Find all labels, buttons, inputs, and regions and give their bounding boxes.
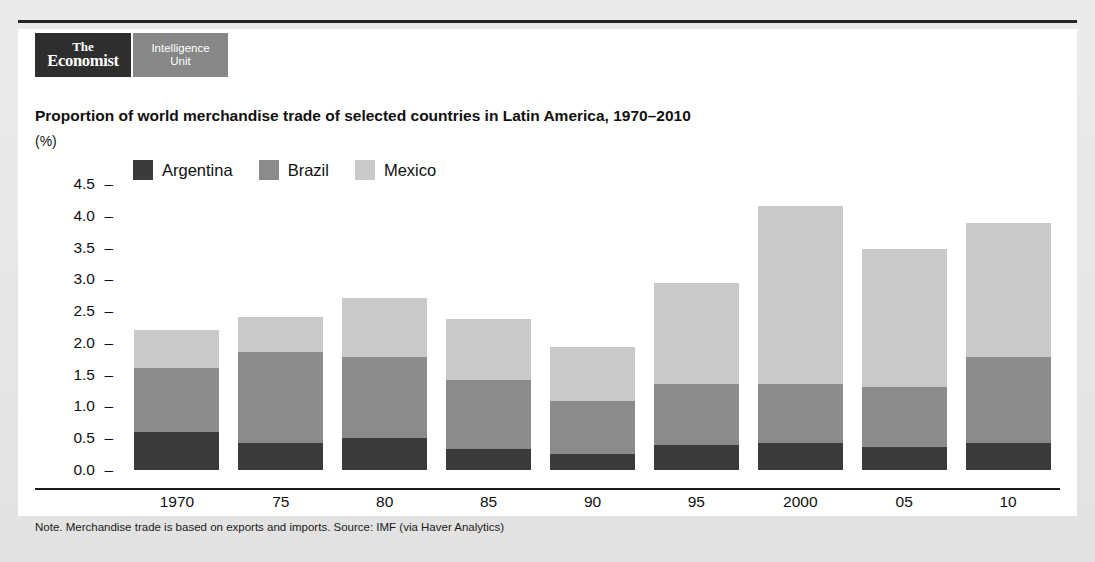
bar-1970[interactable] <box>134 330 219 470</box>
bar-segment-mexico <box>758 206 843 384</box>
y-axis-tick: 0.0– <box>35 461 113 479</box>
x-axis-label: 10 <box>999 493 1016 511</box>
bar-segment-argentina <box>550 454 635 470</box>
bar-2000[interactable] <box>758 206 843 470</box>
bar-segment-argentina <box>966 443 1051 470</box>
bar-80[interactable] <box>342 298 427 470</box>
bar-segment-brazil <box>758 384 843 442</box>
chart-footnote: Note. Merchandise trade is based on expo… <box>35 521 504 533</box>
bar-segment-argentina <box>446 449 531 470</box>
eiu-logo: The Economist Intelligence Unit <box>35 33 228 77</box>
bar-segment-mexico <box>134 330 219 368</box>
bar-segment-argentina <box>862 447 947 470</box>
eiu-logo-line2: Unit <box>170 55 190 68</box>
bar-75[interactable] <box>238 317 323 470</box>
intelligence-unit-logo-block: Intelligence Unit <box>133 33 228 77</box>
y-axis-tick: 1.0– <box>35 397 113 415</box>
y-axis-unit-label: (%) <box>35 133 57 149</box>
y-axis-tick-mark-icon: – <box>100 239 113 257</box>
y-axis-tick-label: 4.0 <box>73 207 95 224</box>
x-axis-labels: 1970758085909520000510 <box>125 493 1060 517</box>
bar-segment-mexico <box>446 319 531 380</box>
x-axis-line <box>35 488 1060 490</box>
plot-area: 4.5–4.0–3.5–3.0–2.5–2.0–1.5–1.0–0.5–0.0– <box>35 160 1060 470</box>
bar-segment-argentina <box>758 443 843 470</box>
y-axis-tick-mark-icon: – <box>100 302 113 320</box>
bar-segment-mexico <box>342 298 427 356</box>
bar-segment-brazil <box>342 357 427 438</box>
x-axis-label: 05 <box>896 493 913 511</box>
bar-segment-brazil <box>238 352 323 443</box>
y-axis-tick-mark-icon: – <box>100 175 113 193</box>
y-axis-tick-label: 4.5 <box>73 175 95 192</box>
y-axis-tick-label: 0.0 <box>73 461 95 478</box>
eiu-logo-line1: Intelligence <box>151 42 209 55</box>
bar-segment-argentina <box>238 443 323 470</box>
bar-segment-mexico <box>550 347 635 401</box>
y-axis-tick: 1.5– <box>35 366 113 384</box>
y-axis-tick-label: 1.0 <box>73 397 95 414</box>
y-axis-tick: 4.0– <box>35 207 113 225</box>
bar-segment-mexico <box>654 283 739 385</box>
x-axis-label: 2000 <box>783 493 817 511</box>
bar-90[interactable] <box>550 347 635 470</box>
y-axis-tick-label: 1.5 <box>73 366 95 383</box>
y-axis-tick: 3.0– <box>35 270 113 288</box>
bar-segment-brazil <box>654 384 739 444</box>
y-axis-tick-mark-icon: – <box>100 366 113 384</box>
bar-segment-mexico <box>238 317 323 352</box>
y-axis-tick: 2.5– <box>35 302 113 320</box>
y-axis-tick-mark-icon: – <box>100 270 113 288</box>
y-axis-tick-label: 2.0 <box>73 334 95 351</box>
y-axis-tick-label: 3.5 <box>73 239 95 256</box>
x-axis-label: 1970 <box>160 493 194 511</box>
bar-10[interactable] <box>966 223 1051 470</box>
y-axis-tick-label: 3.0 <box>73 270 95 287</box>
header-rule <box>18 20 1077 23</box>
bar-segment-mexico <box>966 223 1051 356</box>
bar-segment-brazil <box>550 401 635 454</box>
x-axis-label: 90 <box>584 493 601 511</box>
economist-logo-block: The Economist <box>35 33 131 77</box>
bars-container <box>125 160 1060 470</box>
bar-85[interactable] <box>446 319 531 470</box>
x-axis-label: 85 <box>480 493 497 511</box>
bar-segment-argentina <box>654 445 739 470</box>
y-axis-tick-mark-icon: – <box>100 461 113 479</box>
bar-segment-argentina <box>342 438 427 470</box>
y-axis-tick: 3.5– <box>35 239 113 257</box>
bar-segment-argentina <box>134 432 219 470</box>
economist-logo-line2: Economist <box>47 53 119 70</box>
x-axis-label: 80 <box>376 493 393 511</box>
bar-segment-brazil <box>446 380 531 449</box>
y-axis-tick: 2.0– <box>35 334 113 352</box>
bar-05[interactable] <box>862 249 947 470</box>
bar-95[interactable] <box>654 283 739 470</box>
x-axis-label: 95 <box>688 493 705 511</box>
y-axis-tick-label: 2.5 <box>73 302 95 319</box>
chart-card: The Economist Intelligence Unit Proporti… <box>18 29 1077 516</box>
y-axis-tick-mark-icon: – <box>100 429 113 447</box>
bar-segment-brazil <box>966 357 1051 443</box>
bar-segment-brazil <box>862 387 947 447</box>
y-axis-tick-mark-icon: – <box>100 397 113 415</box>
x-axis-label: 75 <box>272 493 289 511</box>
y-axis-tick: 0.5– <box>35 429 113 447</box>
y-axis-tick-mark-icon: – <box>100 334 113 352</box>
bar-segment-mexico <box>862 249 947 387</box>
chart-title: Proportion of world merchandise trade of… <box>35 107 691 125</box>
y-axis-tick-mark-icon: – <box>100 207 113 225</box>
bar-segment-brazil <box>134 368 219 432</box>
y-axis-tick: 4.5– <box>35 175 113 193</box>
y-axis-tick-label: 0.5 <box>73 429 95 446</box>
